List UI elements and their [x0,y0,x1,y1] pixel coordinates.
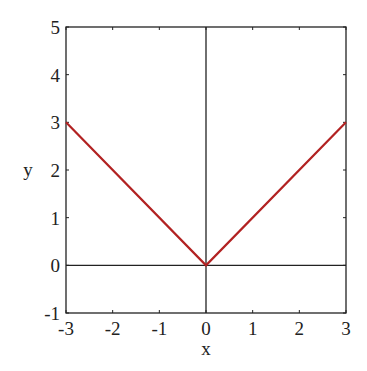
y-tick-label: 0 [51,255,61,276]
x-tick-label: -1 [151,318,167,339]
x-tick-label: 2 [295,318,305,339]
y-tick-label: 5 [51,17,61,38]
y-tick-label: -1 [44,303,60,324]
tick-labels: -3-2-10123-1012345 [44,17,351,339]
x-tick-label: 1 [248,318,258,339]
y-tick-label: 4 [51,65,61,86]
y-axis-label: y [23,159,33,180]
x-axis-label: x [201,338,211,359]
x-tick-label: 0 [201,318,211,339]
origin-axes [66,27,346,313]
y-tick-label: 1 [51,208,61,229]
y-tick-label: 3 [51,112,61,133]
x-tick-label: 3 [341,318,351,339]
x-tick-label: -3 [58,318,74,339]
y-tick-label: 2 [51,160,61,181]
chart: -3-2-10123-1012345 x y [0,0,367,371]
x-tick-label: -2 [105,318,121,339]
